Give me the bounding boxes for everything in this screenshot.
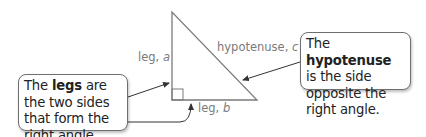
leg-b-text: leg,	[198, 101, 223, 115]
hypotenuse-callout-term: hypotenuse	[306, 53, 391, 68]
hypotenuse-callout-prefix: The	[306, 36, 330, 51]
arrow-to-leg-a	[128, 83, 169, 97]
hypotenuse-variable: c	[292, 40, 298, 54]
leg-b-variable: b	[223, 101, 230, 115]
right-triangle	[172, 12, 257, 100]
leg-a-label: leg, a	[138, 50, 170, 64]
right-angle-mark	[172, 89, 183, 100]
leg-a-variable: a	[163, 50, 170, 64]
arrow-to-hypotenuse	[243, 62, 300, 80]
legs-callout-term: legs	[52, 78, 82, 93]
hypotenuse-callout-suffix: is the side opposite the right angle.	[306, 69, 386, 117]
legs-callout: The legs are the two sides that form the…	[18, 74, 128, 131]
leg-b-label: leg, b	[198, 101, 230, 115]
legs-callout-prefix: The	[24, 78, 52, 93]
leg-a-text: leg,	[138, 50, 163, 64]
arrow-to-leg-b	[128, 104, 191, 122]
hypotenuse-text: hypotenuse,	[217, 40, 292, 54]
hypotenuse-label: hypotenuse, c	[217, 40, 298, 54]
hypotenuse-callout: The hypotenuse is the side opposite the …	[300, 32, 411, 90]
